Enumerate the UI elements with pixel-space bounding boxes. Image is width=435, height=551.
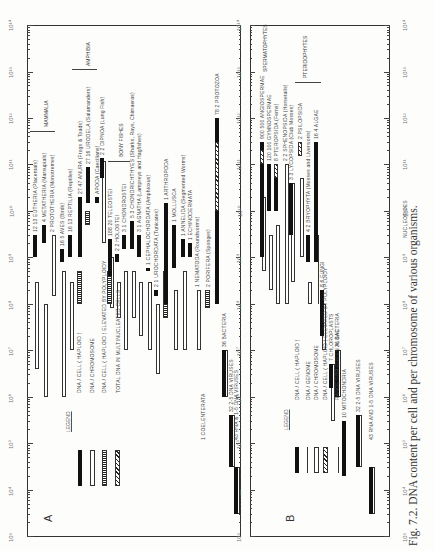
a-cell-bar xyxy=(33,235,37,257)
tick-minor xyxy=(239,328,241,329)
tick-minor xyxy=(250,401,252,402)
tick-minor xyxy=(239,189,241,190)
tick-minor xyxy=(250,421,252,422)
tick-minor xyxy=(27,306,30,307)
figure-page: 10³10⁴10⁵10⁶10⁷10⁸10⁹10¹⁰10¹¹10¹²10¹³10¹… xyxy=(0,0,435,551)
a-series-label: 1 MOLLUSCA xyxy=(171,188,177,222)
tick-minor xyxy=(250,35,252,36)
tick-minor xyxy=(27,271,30,272)
tick-minor xyxy=(250,183,252,184)
tick-minor xyxy=(239,235,241,236)
tick-minor xyxy=(27,457,30,458)
a-series-label: 1 ARTHROPODA xyxy=(163,158,169,200)
tick-minor xyxy=(387,504,390,505)
tick-minor xyxy=(27,215,30,216)
tick-minor xyxy=(387,522,390,523)
tick-minor xyxy=(387,243,390,244)
tick-minor xyxy=(27,508,30,509)
tick-minor xyxy=(239,58,241,59)
legend-b-swatch-hatch xyxy=(323,447,328,473)
a-cell-bar xyxy=(42,225,46,243)
tick-major xyxy=(27,490,33,491)
tick-major xyxy=(250,443,255,444)
tick-minor xyxy=(239,104,241,105)
b-chrom-bar xyxy=(300,178,304,257)
tick-minor xyxy=(27,178,30,179)
tick-minor xyxy=(250,352,252,353)
tick-minor xyxy=(387,221,390,222)
tick-minor xyxy=(239,514,241,515)
b-series-label: 120 100 GYMNOSPERMAE xyxy=(266,95,272,162)
bracket-amphibia xyxy=(72,69,97,70)
tick-minor xyxy=(250,268,252,269)
a-series-label: 2 2 DIPNOA (Lung Fish) xyxy=(99,96,105,154)
tick-minor xyxy=(250,290,252,291)
tick-minor xyxy=(27,189,30,190)
tick-minor xyxy=(387,183,390,184)
tick-minor xyxy=(250,508,252,509)
bracket-mammalia xyxy=(30,131,55,132)
tick-minor xyxy=(239,221,241,222)
tick-minor xyxy=(239,415,241,416)
legend-b-title: LEGEND xyxy=(283,409,289,430)
tick-minor xyxy=(239,39,241,40)
tick-minor xyxy=(387,178,390,179)
tick-minor xyxy=(250,457,252,458)
tick-minor xyxy=(250,322,252,323)
tick-major xyxy=(250,257,255,258)
tick-minor xyxy=(250,49,252,50)
tick-minor xyxy=(387,44,390,45)
tick-minor xyxy=(27,35,30,36)
legend-b-swatch-range xyxy=(338,447,339,473)
tick-minor xyxy=(27,142,30,143)
tick-minor xyxy=(239,225,241,226)
tick-minor xyxy=(239,218,241,219)
tick-minor xyxy=(250,399,252,400)
tick-minor xyxy=(27,44,30,45)
tick-minor xyxy=(250,30,252,31)
tick-minor xyxy=(387,175,390,176)
tick-minor xyxy=(387,225,390,226)
tick-minor xyxy=(387,476,390,477)
tick-minor xyxy=(250,142,252,143)
tick-label: 10¹³ xyxy=(402,67,408,78)
a-cell-bar xyxy=(122,235,126,249)
tick-minor xyxy=(250,218,252,219)
a-series-label: 12 13 EUTHERIA (Placentals) xyxy=(32,160,38,232)
tick-minor xyxy=(387,306,390,307)
tick-minor xyxy=(387,125,390,126)
tick-minor xyxy=(239,429,241,430)
tick-minor xyxy=(250,96,252,97)
b-cell-bar xyxy=(306,235,310,262)
tick-label: 10⁸ xyxy=(236,301,242,310)
legend-a-swatch-hatch xyxy=(115,450,120,486)
tick-minor xyxy=(27,404,30,405)
tick-minor xyxy=(387,229,390,230)
tick-minor xyxy=(387,82,390,83)
tick-major xyxy=(250,350,255,351)
a-cell-bar xyxy=(130,221,134,249)
tick-minor xyxy=(27,125,30,126)
tick-minor xyxy=(250,197,252,198)
tick-minor xyxy=(250,497,252,498)
a-series-label: 1 ANNELIDA (Segmented Worms) xyxy=(180,154,186,236)
tick-label: 10¹⁴ xyxy=(402,20,408,31)
a-cell-bar xyxy=(60,249,64,262)
group-label-bony-fishes: BONY FISHES xyxy=(118,123,124,157)
a-series-label: 16 13 REPTILIA (Reptiles) xyxy=(67,168,73,232)
tick-minor xyxy=(239,32,241,33)
tick-minor xyxy=(387,172,390,173)
a-series-label: 27 47 ANURA (Frogs & Toads) xyxy=(77,121,83,194)
tick-minor xyxy=(239,357,241,358)
tick-minor xyxy=(250,369,252,370)
a-series-label: 16 5 AVES (Birds) xyxy=(59,203,65,246)
tick-label: 10⁹ xyxy=(236,254,242,263)
tick-minor xyxy=(387,404,390,405)
tick-minor xyxy=(27,172,30,173)
tick-major xyxy=(250,72,255,73)
tick-minor xyxy=(387,90,390,91)
tick-minor xyxy=(27,27,30,28)
a-cell-bar xyxy=(115,254,119,262)
tick-minor xyxy=(250,215,252,216)
tick-minor xyxy=(250,361,252,362)
